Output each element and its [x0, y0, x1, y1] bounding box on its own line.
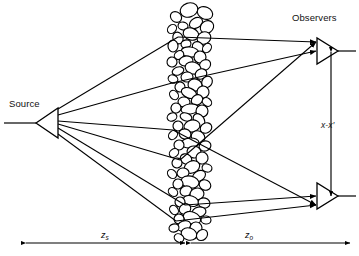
- zs-label: zs: [101, 231, 109, 241]
- ray-incident: [58, 134, 176, 221]
- observer-top: [317, 38, 338, 64]
- ray-incident: [58, 128, 185, 205]
- separation-text: x-x: [321, 120, 333, 130]
- zo-subscript: o: [250, 234, 254, 241]
- zo-label: zo: [245, 231, 253, 241]
- observers-label: Observers: [292, 13, 337, 23]
- diagram-canvas: Source Observers x-x′ zs zo: [0, 0, 359, 256]
- source-symbol: [4, 108, 58, 138]
- medium-blob: [166, 168, 179, 181]
- scattering-geometry-figure: [0, 0, 359, 256]
- source-label: Source: [9, 99, 40, 109]
- observer-bottom: [317, 183, 338, 209]
- separation-prime: ′: [333, 120, 335, 130]
- zs-subscript: s: [106, 234, 109, 241]
- separation-label: x-x′: [321, 121, 334, 130]
